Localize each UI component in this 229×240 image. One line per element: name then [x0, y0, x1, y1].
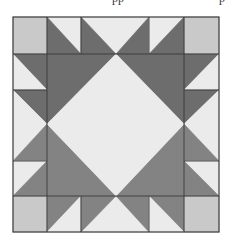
quilt-block-diagram [0, 0, 229, 240]
corner-top-left-piece [13, 17, 47, 54]
corner-bottom-right-piece [184, 196, 219, 232]
corner-bottom-left-piece [13, 196, 47, 232]
corner-top-right-piece [184, 17, 219, 54]
quilt-pieces [13, 17, 219, 232]
